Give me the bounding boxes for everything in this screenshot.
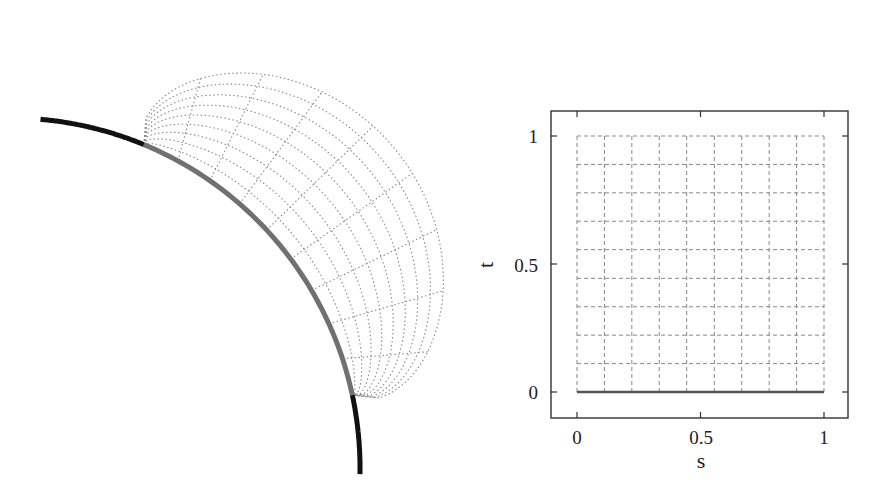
mesh-line-constant-s <box>178 79 201 161</box>
mesh-line-constant-t <box>144 105 405 396</box>
ytick-label-0.5: 0.5 <box>514 255 538 276</box>
mesh-line-constant-s <box>267 126 373 230</box>
boundary-arc-gray-segment <box>144 145 353 396</box>
mesh-line-constant-t <box>144 132 371 395</box>
plot-frame <box>551 111 848 418</box>
boundary-arc-black-bottom <box>352 395 360 474</box>
mesh-line-constant-t <box>144 143 355 395</box>
mesh-line-constant-s <box>343 352 428 359</box>
mesh-line-constant-t <box>144 84 431 397</box>
physical-mesh-panel <box>41 73 444 474</box>
axis-ticks <box>551 111 848 418</box>
xtick-label-0: 0 <box>572 427 582 448</box>
mesh-line-constant-s <box>329 291 443 324</box>
ytick-label-1: 1 <box>529 126 539 147</box>
mesh-line-constant-t <box>144 124 382 395</box>
mesh-line-constant-s <box>210 74 263 180</box>
mesh-line-constant-s <box>312 230 437 291</box>
ytick-label-0: 0 <box>529 382 539 403</box>
curvilinear-mesh <box>144 73 444 398</box>
parameter-grid <box>577 136 824 392</box>
xtick-label-1: 1 <box>819 427 829 448</box>
xtick-label-0.5: 0.5 <box>689 427 713 448</box>
boundary-arc-black-top <box>41 119 144 144</box>
y-axis-label: t <box>473 262 498 268</box>
mesh-line-constant-t <box>144 115 393 395</box>
parameter-space-plot: 1 0.5 0 0 0.5 1 s t <box>473 111 848 473</box>
mesh-line-constant-t <box>144 139 362 395</box>
figure: 1 0.5 0 0 0.5 1 s t <box>0 0 890 488</box>
mesh-line-constant-s <box>240 92 323 204</box>
x-axis-label: s <box>697 448 706 473</box>
